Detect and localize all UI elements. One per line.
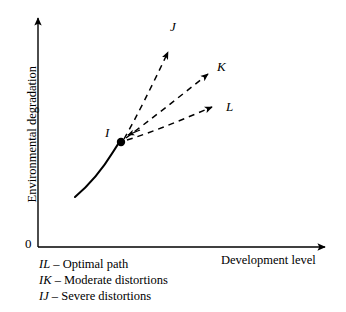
legend-text: Moderate distortions — [64, 273, 168, 287]
point-label-j: J — [170, 20, 176, 33]
legend-code: IK — [39, 273, 52, 287]
legend-dash: – — [52, 273, 65, 287]
x-axis-title: Development level — [221, 254, 316, 267]
branch-il-optimal — [127, 107, 212, 140]
point-label-l: L — [226, 100, 233, 113]
y-axis-title: Environmental degradation — [26, 34, 39, 234]
legend-item: IL – Optimal path — [39, 256, 168, 272]
point-i-marker — [117, 138, 125, 146]
legend-code: IJ — [39, 289, 49, 303]
branch-ij-severe — [124, 52, 168, 139]
legend-dash: – — [50, 257, 63, 271]
econ-figure: I J K L 0 Development level Environmenta… — [0, 0, 346, 312]
branch-ik-moderate — [126, 74, 208, 138]
legend-code: IL — [39, 257, 50, 271]
point-label-i: I — [105, 126, 109, 139]
point-label-k: K — [217, 60, 226, 73]
legend-text: Severe distortions — [61, 289, 151, 303]
legend-text: Optimal path — [63, 257, 129, 271]
legend-item: IJ – Severe distortions — [39, 288, 168, 304]
solid-path-curve — [75, 141, 120, 197]
figure-legend: IL – Optimal path IK – Moderate distorti… — [39, 256, 168, 304]
legend-dash: – — [49, 289, 62, 303]
legend-item: IK – Moderate distortions — [39, 272, 168, 288]
origin-label: 0 — [25, 237, 32, 250]
